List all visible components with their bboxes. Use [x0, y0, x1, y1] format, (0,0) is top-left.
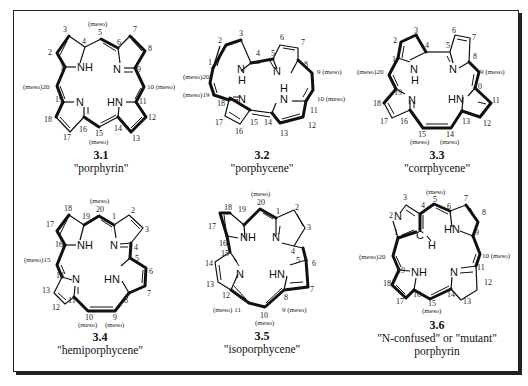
atom-nh-3-4: NH [77, 239, 93, 251]
locant-7: 7 [301, 38, 305, 47]
locant-5: 5 [433, 195, 437, 204]
locant-5: 5 [296, 256, 300, 265]
locant-2: 2 [48, 48, 52, 57]
locant-5: 5 [98, 28, 102, 37]
locant-2: 2 [131, 206, 135, 215]
locant-13: 13 [462, 117, 470, 126]
locant-6: 6 [312, 259, 316, 268]
atom-hn-3-6: HN [444, 223, 460, 235]
atom-h-3-2-a: H [238, 74, 246, 86]
atom-n-3-5-b: N [236, 268, 244, 280]
locant-19: 19 [397, 266, 405, 275]
locant-9: 9 (meso) [480, 68, 505, 76]
locant-13: 13 [132, 134, 140, 143]
locant-3: 3 [403, 193, 407, 202]
compound-name-3-4: "hemiporphycene" [57, 344, 143, 357]
locant-9: 9 (meso) [282, 306, 307, 314]
locant-16: 16 [55, 240, 63, 249]
meso-label-5: (meso) [88, 20, 108, 28]
locant-11: 11 [477, 263, 485, 272]
locant-13: 13 [206, 280, 214, 289]
locant-9: 9 [475, 228, 479, 237]
locant-1: 1 [276, 207, 280, 216]
locant-7: 7 [472, 33, 476, 42]
meso-label-15: (meso) [410, 138, 430, 146]
locant-9: 9 [137, 65, 141, 74]
locant-3: 3 [145, 225, 149, 234]
locant-15: 15 [250, 118, 258, 127]
locant-2: 2 [393, 36, 397, 45]
locant-2: 2 [389, 211, 393, 220]
locant-6: 6 [117, 38, 121, 47]
locant-19: 19 [55, 95, 63, 104]
structure-3-6 [392, 204, 480, 300]
compound-3-4-hemiporphycene: NH N N HN 1 2 3 4 5 6 7 8 9 (meso) 10 (m… [24, 197, 153, 357]
locant-7: 7 [310, 285, 314, 294]
atom-n-3-1-a: N [113, 63, 121, 75]
meso-label-10: (meso) [255, 319, 275, 327]
locant-8: 8 [284, 293, 288, 302]
atom-n-3-3-c: N [408, 94, 416, 106]
compound-3-3-corrphycene: N H N N HN 1 2 3 4 5 6 7 8 9 (meso) 10 1… [357, 26, 505, 175]
atom-n-3-2-c: N [238, 93, 246, 105]
locant-13: 13 [42, 286, 50, 295]
locant-10: 10 [474, 82, 482, 91]
locant-18: 18 [217, 99, 225, 108]
locant-20: (meso)20 [357, 68, 384, 76]
locant-3: 3 [63, 25, 67, 34]
locant-17: 17 [396, 297, 404, 306]
locant-12: 12 [222, 291, 230, 300]
compound-number-3-6: 3.6 [430, 318, 445, 332]
compound-name-3-5: "isoporphycene" [224, 343, 300, 356]
structure-3-2 [210, 40, 313, 124]
locant-17: 17 [215, 118, 223, 127]
locant-4: 4 [425, 41, 429, 50]
locant-12: 12 [483, 119, 491, 128]
locant-19: (meso)19 [183, 91, 210, 99]
locant-1: 1 [112, 212, 116, 221]
compound-number-3-3: 3.3 [430, 148, 445, 162]
locant-6: 6 [280, 33, 284, 42]
locant-2: 2 [218, 36, 222, 45]
locant-14: 14 [205, 259, 213, 268]
porphyrin-isomers-diagram: NH N N HN 1 2 3 4 (meso) 5 6 7 8 9 10 (m… [0, 0, 528, 386]
locant-5: 5 [271, 49, 275, 58]
atom-n-3-1-b: N [76, 96, 84, 108]
atom-n-3-6-confused: N [394, 210, 402, 222]
atom-nh-3-1: NH [77, 61, 93, 73]
structure-3-1 [56, 36, 146, 132]
compound-name-3-2: "porphycene" [230, 162, 293, 175]
atom-hn-3-3: HN [448, 93, 464, 105]
meso-label-15: (meso) [89, 138, 109, 146]
meso-label-14: (meso) [440, 138, 460, 146]
locant-20: (meso)20 [23, 83, 50, 91]
atom-n-3-3-b: N [449, 63, 457, 75]
locant-4: 4 [291, 247, 295, 256]
locant-17: 17 [380, 117, 388, 126]
locant-18: 18 [44, 115, 52, 124]
locant-4: 4 [256, 49, 260, 58]
locant-8: 8 [304, 60, 308, 69]
locant-13: 13 [280, 129, 288, 138]
compound-name-3-6-line1: "N-confused" or "mutant" [377, 332, 497, 344]
atom-n-3-6: N [450, 266, 458, 278]
meso-label-20: (meso) [251, 190, 271, 198]
locant-12: 12 [52, 303, 60, 312]
atom-h-3-6-inner: H [428, 239, 436, 251]
locant-20: 20 [257, 198, 265, 207]
locant-4: 4 [82, 37, 86, 46]
atom-n-3-2-b: N [273, 65, 281, 77]
locant-9: 9 (meso) [317, 68, 342, 76]
atom-n-3-5-a: N [272, 231, 280, 243]
locant-7: 7 [464, 194, 468, 203]
locant-20: (meso)20 [359, 253, 386, 261]
atom-c-3-6-inner: C [416, 229, 424, 241]
locant-14: 14 [447, 290, 455, 299]
meso-label-10: (meso) [78, 321, 98, 329]
locant-16: 16 [219, 239, 227, 248]
locant-13: 13 [463, 297, 471, 306]
locant-11: 11 [68, 296, 76, 305]
locant-6: 6 [149, 267, 153, 276]
locant-15: (meso)15 [24, 256, 51, 264]
locant-11: (meso) 11 [213, 306, 241, 314]
